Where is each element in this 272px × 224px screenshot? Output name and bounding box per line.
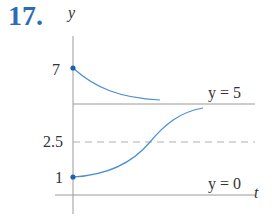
t-axis-label: t <box>254 184 259 201</box>
initial-point-7 <box>70 65 75 70</box>
label-y-equals-0: y = 0 <box>208 175 241 193</box>
phase-diagram: y t 7 2.5 1 y = 5 y = 0 <box>0 0 272 224</box>
tick-2-5: 2.5 <box>43 133 63 150</box>
y-axis-label: y <box>66 4 76 22</box>
initial-point-1 <box>70 174 75 179</box>
label-y-equals-5: y = 5 <box>208 84 241 102</box>
tick-1: 1 <box>55 169 63 186</box>
upper-solution-curve <box>73 68 160 100</box>
tick-7: 7 <box>52 61 60 78</box>
